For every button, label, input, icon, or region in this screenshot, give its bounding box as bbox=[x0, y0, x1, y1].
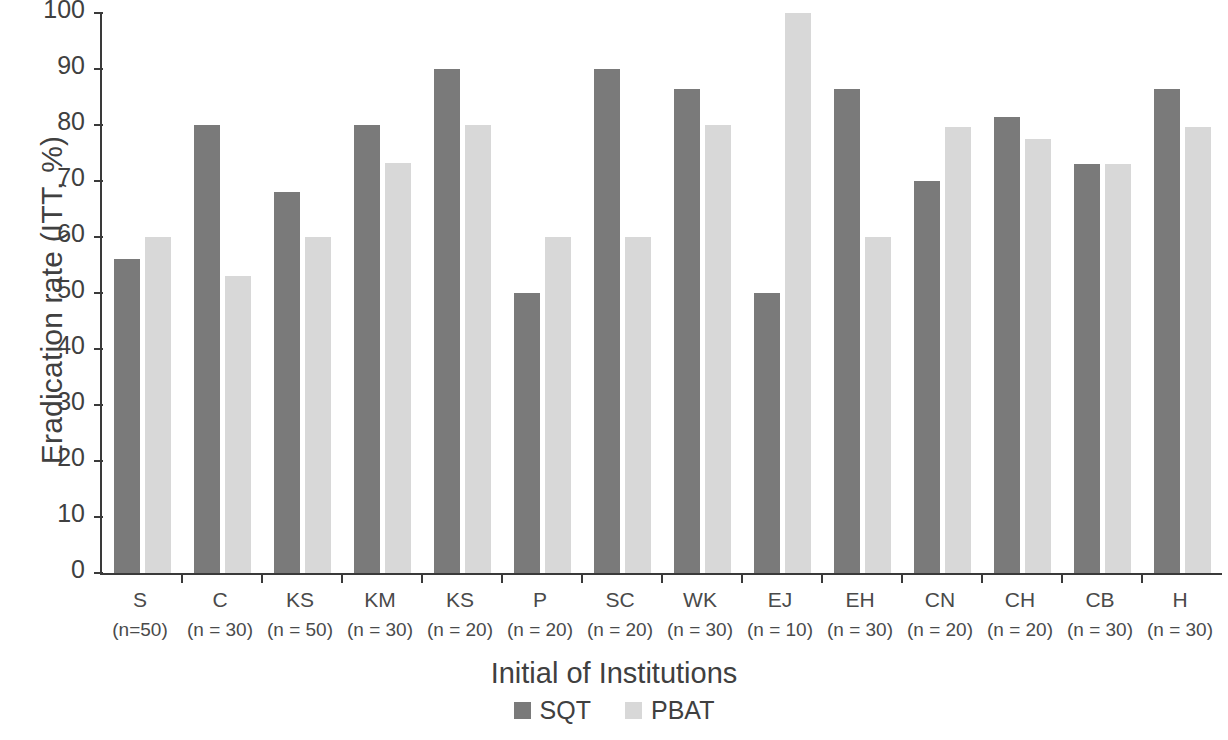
x-axis-category: SC(n = 20) bbox=[580, 585, 660, 645]
x-axis-tick bbox=[1061, 573, 1063, 583]
bar-sqt[interactable] bbox=[994, 117, 1020, 573]
x-category-sample-size: (n = 30) bbox=[660, 615, 740, 645]
bar-group bbox=[582, 13, 662, 573]
x-axis-category: EJ(n = 10) bbox=[740, 585, 820, 645]
x-category-sample-size: (n = 30) bbox=[1060, 615, 1140, 645]
bar-pbat[interactable] bbox=[1105, 164, 1131, 573]
x-category-name: CB bbox=[1060, 585, 1140, 615]
bar-pbat[interactable] bbox=[305, 237, 331, 573]
bar-sqt[interactable] bbox=[354, 125, 380, 573]
x-category-sample-size: (n = 10) bbox=[740, 615, 820, 645]
chart-legend: SQTPBAT bbox=[0, 698, 1228, 723]
bar-pbat[interactable] bbox=[945, 127, 971, 573]
x-category-name: H bbox=[1140, 585, 1220, 615]
y-tick-label: 80 bbox=[57, 109, 85, 134]
plot-area: 0102030405060708090100 bbox=[100, 13, 1222, 575]
x-category-name: EH bbox=[820, 585, 900, 615]
legend-item-pbat[interactable]: PBAT bbox=[625, 698, 714, 723]
x-category-sample-size: (n=50) bbox=[100, 615, 180, 645]
bar-group bbox=[502, 13, 582, 573]
bar-groups bbox=[102, 13, 1222, 573]
x-category-name: CH bbox=[980, 585, 1060, 615]
y-tick-label: 20 bbox=[57, 445, 85, 470]
x-axis-title: Initial of Institutions bbox=[0, 657, 1228, 690]
bar-group bbox=[982, 13, 1062, 573]
x-category-sample-size: (n = 30) bbox=[340, 615, 420, 645]
legend-label: SQT bbox=[540, 698, 591, 723]
x-axis-category: KM(n = 30) bbox=[340, 585, 420, 645]
bar-pbat[interactable] bbox=[1185, 127, 1211, 573]
x-category-name: KS bbox=[260, 585, 340, 615]
x-axis-category: EH(n = 30) bbox=[820, 585, 900, 645]
x-axis-tick bbox=[581, 573, 583, 583]
bar-sqt[interactable] bbox=[1074, 164, 1100, 573]
bar-pbat[interactable] bbox=[785, 13, 811, 573]
x-axis-tick bbox=[901, 573, 903, 583]
x-axis-tick bbox=[501, 573, 503, 583]
y-tick-label: 40 bbox=[57, 333, 85, 358]
x-axis-tick bbox=[421, 573, 423, 583]
bar-sqt[interactable] bbox=[434, 69, 460, 573]
bar-sqt[interactable] bbox=[1154, 89, 1180, 573]
bar-sqt[interactable] bbox=[754, 293, 780, 573]
x-category-name: KS bbox=[420, 585, 500, 615]
x-axis-category-labels: S(n=50)C(n = 30)KS(n = 50)KM(n = 30)KS(n… bbox=[100, 585, 1220, 645]
x-axis-tick bbox=[981, 573, 983, 583]
x-category-sample-size: (n = 30) bbox=[180, 615, 260, 645]
x-category-sample-size: (n = 20) bbox=[580, 615, 660, 645]
x-axis-tick bbox=[341, 573, 343, 583]
x-axis-category: CN(n = 20) bbox=[900, 585, 980, 645]
bar-sqt[interactable] bbox=[914, 181, 940, 573]
bar-group bbox=[262, 13, 342, 573]
bar-sqt[interactable] bbox=[514, 293, 540, 573]
y-tick-label: 10 bbox=[57, 501, 85, 526]
legend-swatch-icon bbox=[625, 702, 642, 719]
bar-chart-figure: Eradication rate (ITT, %) 01020304050607… bbox=[0, 0, 1228, 740]
x-axis-category: KS(n = 50) bbox=[260, 585, 340, 645]
bar-group bbox=[342, 13, 422, 573]
bar-sqt[interactable] bbox=[274, 192, 300, 573]
x-category-name: CN bbox=[900, 585, 980, 615]
bar-group bbox=[822, 13, 902, 573]
bar-pbat[interactable] bbox=[705, 125, 731, 573]
x-category-name: WK bbox=[660, 585, 740, 615]
bar-pbat[interactable] bbox=[545, 237, 571, 573]
bar-group bbox=[902, 13, 982, 573]
bar-sqt[interactable] bbox=[594, 69, 620, 573]
y-tick-label: 60 bbox=[57, 221, 85, 246]
bar-group bbox=[662, 13, 742, 573]
y-tick-label: 50 bbox=[57, 277, 85, 302]
y-tick-label: 30 bbox=[57, 389, 85, 414]
x-category-name: EJ bbox=[740, 585, 820, 615]
x-axis-category: CH(n = 20) bbox=[980, 585, 1060, 645]
x-category-sample-size: (n = 30) bbox=[820, 615, 900, 645]
x-category-name: S bbox=[100, 585, 180, 615]
bar-pbat[interactable] bbox=[1025, 139, 1051, 573]
bar-pbat[interactable] bbox=[385, 163, 411, 573]
bar-group bbox=[742, 13, 822, 573]
bar-sqt[interactable] bbox=[114, 259, 140, 573]
bar-pbat[interactable] bbox=[145, 237, 171, 573]
x-category-name: KM bbox=[340, 585, 420, 615]
x-axis-category: CB(n = 30) bbox=[1060, 585, 1140, 645]
bar-pbat[interactable] bbox=[225, 276, 251, 573]
x-category-sample-size: (n = 20) bbox=[420, 615, 500, 645]
bar-sqt[interactable] bbox=[674, 89, 700, 573]
x-category-sample-size: (n = 20) bbox=[900, 615, 980, 645]
bar-pbat[interactable] bbox=[625, 237, 651, 573]
x-axis-tick bbox=[661, 573, 663, 583]
x-axis-category: WK(n = 30) bbox=[660, 585, 740, 645]
bar-sqt[interactable] bbox=[834, 89, 860, 573]
bar-pbat[interactable] bbox=[465, 125, 491, 573]
bar-group bbox=[102, 13, 182, 573]
bar-pbat[interactable] bbox=[865, 237, 891, 573]
x-category-name: C bbox=[180, 585, 260, 615]
x-axis-category: KS(n = 20) bbox=[420, 585, 500, 645]
x-category-name: P bbox=[500, 585, 580, 615]
x-category-sample-size: (n = 20) bbox=[500, 615, 580, 645]
legend-swatch-icon bbox=[514, 702, 531, 719]
legend-item-sqt[interactable]: SQT bbox=[514, 698, 591, 723]
x-category-name: SC bbox=[580, 585, 660, 615]
legend-label: PBAT bbox=[651, 698, 714, 723]
bar-sqt[interactable] bbox=[194, 125, 220, 573]
